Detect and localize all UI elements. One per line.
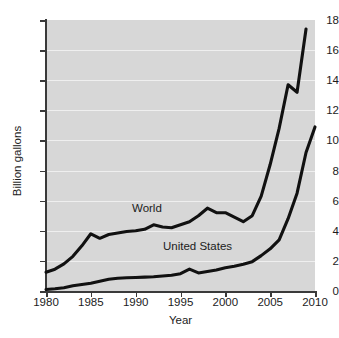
gridline-10 [46,140,315,141]
gridline-2 [46,261,315,262]
series-label-united-states: United States [163,241,232,253]
y-axis-title: Billion gallons [11,111,23,211]
y-tick-16 [40,50,46,52]
chart-figure: 18 16 14 12 10 8 6 4 2 0 1980 1985 1990 … [0,0,339,338]
y-tick-4 [40,231,46,233]
y-tick-10 [40,140,46,142]
y-tick-label-10: 10 [305,135,339,147]
gridline-6 [46,201,315,202]
y-tick-label-18: 18 [305,15,339,27]
x-axis-title: Year [46,314,315,326]
y-tick-label-4: 4 [305,226,339,238]
gridline-16 [46,50,315,51]
gridline-8 [46,171,315,172]
y-tick-label-8: 8 [305,166,339,178]
y-tick-14 [40,80,46,82]
y-tick-label-2: 2 [305,256,339,268]
y-tick-label-16: 16 [305,45,339,57]
x-tick-label-1995: 1995 [157,297,205,309]
series-label-world: World [132,203,162,215]
x-tick-label-1990: 1990 [112,297,160,309]
y-tick-label-6: 6 [305,196,339,208]
x-tick-label-1980: 1980 [22,297,70,309]
y-tick-8 [40,171,46,173]
gridline-4 [46,231,315,232]
y-tick-12 [40,110,46,112]
gridline-12 [46,110,315,111]
y-axis-line [45,19,47,292]
x-tick-label-2010: 2010 [291,297,339,309]
y-tick-label-12: 12 [305,105,339,117]
y-tick-6 [40,201,46,203]
y-tick-18 [40,20,46,22]
y-tick-label-14: 14 [305,75,339,87]
y-tick-2 [40,261,46,263]
x-tick-label-1985: 1985 [67,297,115,309]
x-tick-label-2000: 2000 [201,297,249,309]
gridline-14 [46,80,315,81]
x-tick-label-2005: 2005 [246,297,294,309]
